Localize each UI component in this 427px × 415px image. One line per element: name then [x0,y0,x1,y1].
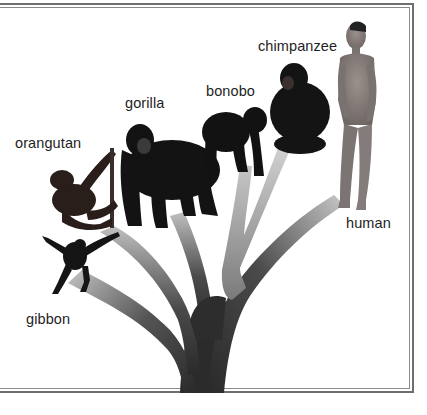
tree-illustration [0,0,427,415]
label-chimpanzee: chimpanzee [258,38,337,54]
label-orangutan: orangutan [15,135,81,151]
human-figure [338,22,377,211]
label-bonobo: bonobo [206,83,255,99]
bonobo-figure [202,107,267,176]
label-human: human [346,215,391,231]
branch-gibbon [68,270,196,393]
label-gorilla: gorilla [125,95,164,111]
chimpanzee-figure [270,63,330,154]
phylogeny-diagram: orangutan gorilla bonobo chimpanzee huma… [0,0,427,415]
orangutan-figure [50,148,118,230]
label-gibbon: gibbon [26,311,70,327]
